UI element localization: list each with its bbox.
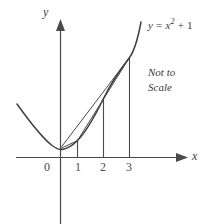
parabola-curve: [17, 22, 141, 150]
not-to-scale-note-line2: Scale: [148, 82, 172, 93]
x-axis-arrowhead: [176, 153, 188, 162]
equation-constant: 1: [187, 19, 193, 31]
tick-label-2: 2: [100, 161, 106, 173]
tick-label-0: 0: [44, 161, 50, 173]
y-axis-label: y: [43, 6, 48, 18]
not-to-scale-note-line1: Not to: [148, 67, 175, 78]
tick-label-1: 1: [75, 161, 81, 173]
x-axis-label: x: [192, 150, 197, 162]
graph-canvas: [0, 0, 211, 224]
y-axis-arrowhead: [56, 19, 65, 31]
curve-equation-label: y = x2 + 1: [148, 18, 193, 31]
tick-label-3: 3: [126, 161, 132, 173]
figure-container: y x 0 1 2 3 y = x2 + 1 Not to Scale: [0, 0, 211, 224]
y-axis: [56, 19, 65, 224]
